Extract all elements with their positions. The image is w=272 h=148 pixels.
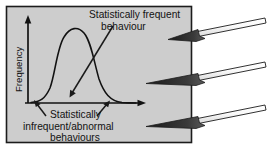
infrequent-behaviour-label-line1: Statistically [50,109,102,120]
distribution-diagram-figure: Frequency Statistically frequent behavio… [0,0,272,148]
frequent-behaviour-label-line1: Statistically frequent [89,9,180,20]
infrequent-behaviour-label-line3: behaviours [50,132,100,143]
frequent-behaviour-label-line2: behaviour [101,21,146,32]
infrequent-behaviour-label-line2: infrequent/abnormal [23,121,114,132]
y-axis-label: Frequency [13,46,24,92]
diagram-canvas: Frequency Statistically frequent behavio… [0,0,272,148]
